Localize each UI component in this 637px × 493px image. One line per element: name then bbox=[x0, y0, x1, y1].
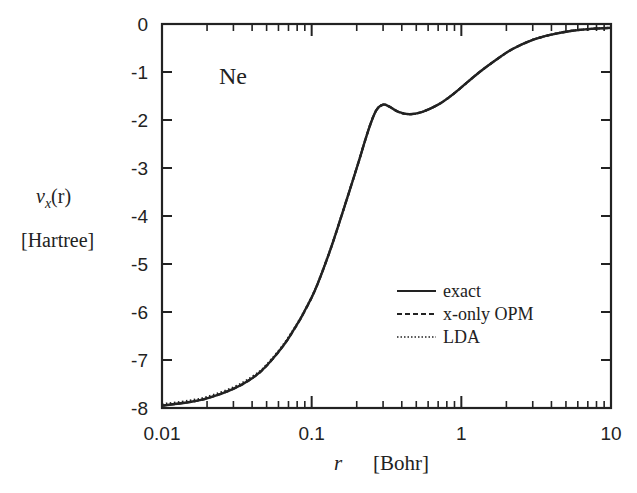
x-tick-label: 1 bbox=[456, 423, 467, 444]
axis-tick-labels: 0-1-2-3-4-5-6-7-80.010.1110 bbox=[131, 14, 621, 444]
y-tick-label: -8 bbox=[131, 398, 148, 419]
x-tick-label: 10 bbox=[600, 423, 621, 444]
exchange-potential-chart: 0-1-2-3-4-5-6-7-80.010.1110 Ne vx(r) [Ha… bbox=[0, 0, 637, 493]
y-tick-label: -3 bbox=[131, 158, 148, 179]
x-tick-label: 0.1 bbox=[298, 423, 324, 444]
x-axis-unit: [Bohr] bbox=[373, 451, 429, 475]
y-tick-label: -1 bbox=[131, 62, 148, 83]
y-axis-unit: [Hartree] bbox=[21, 229, 94, 251]
y-tick-label: 0 bbox=[137, 14, 148, 35]
y-tick-label: -6 bbox=[131, 302, 148, 323]
y-tick-label: -5 bbox=[131, 254, 148, 275]
y-axis-argument: (r) bbox=[51, 185, 71, 208]
y-tick-label: -7 bbox=[131, 350, 148, 371]
legend-label-exact: exact bbox=[443, 281, 481, 301]
element-label: Ne bbox=[219, 63, 247, 89]
x-tick-label: 0.01 bbox=[144, 423, 181, 444]
y-tick-label: -2 bbox=[131, 110, 148, 131]
legend: exact x-only OPM LDA bbox=[397, 281, 534, 347]
y-axis-symbol: v bbox=[36, 185, 45, 207]
y-axis-label: vx(r) bbox=[36, 185, 71, 211]
legend-label-lda: LDA bbox=[443, 327, 480, 347]
x-axis-symbol: r bbox=[334, 451, 343, 475]
y-tick-label: -4 bbox=[131, 206, 148, 227]
legend-label-opm: x-only OPM bbox=[443, 304, 534, 324]
